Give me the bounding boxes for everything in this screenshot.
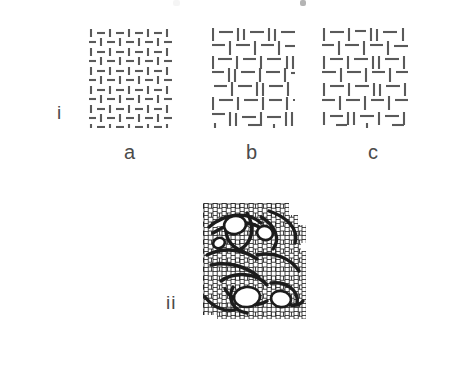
segment-lattice-c: [322, 28, 410, 128]
panel-caption-a: a: [124, 142, 135, 162]
row-label-i: i: [57, 103, 62, 122]
panel-i-c: [322, 28, 410, 128]
segment-lattice-b: [212, 28, 296, 128]
panel-caption-b: b: [246, 142, 257, 162]
panel-i-a: [89, 28, 173, 128]
woven-mesh-pattern: [203, 203, 306, 319]
segment-lattice-a: [89, 28, 173, 128]
figure-root: i: [0, 0, 454, 367]
cropped-text-artifact-left: [173, 0, 180, 6]
cropped-text-artifact-right: [300, 0, 306, 6]
panel-caption-c: c: [368, 142, 378, 162]
panel-ii-woven-mesh: [203, 203, 306, 319]
panel-i-b: [212, 28, 296, 128]
row-label-ii: ii: [166, 293, 176, 312]
